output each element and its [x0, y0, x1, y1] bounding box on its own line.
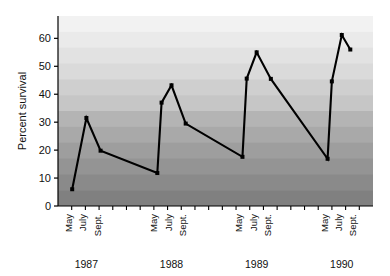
x-month-label: July	[163, 214, 174, 231]
x-year-label: 1990	[330, 258, 354, 270]
background-band	[58, 111, 373, 127]
x-month-label: Sept.	[177, 214, 188, 236]
data-point-marker	[326, 157, 330, 161]
plot-background-bands	[58, 16, 373, 207]
x-year-label: 1988	[160, 258, 184, 270]
data-point-marker	[245, 77, 249, 81]
background-band	[58, 79, 373, 95]
y-tick-label: 0	[45, 200, 51, 212]
y-tick-label: 60	[39, 32, 51, 44]
x-month-label: July	[333, 214, 344, 231]
data-point-marker	[99, 149, 103, 153]
line-chart-svg: 0102030405060 MayJulySept.MayJulySept.Ma…	[0, 0, 390, 276]
background-band	[58, 174, 373, 190]
background-band	[58, 64, 373, 80]
x-month-label: Sept.	[347, 214, 358, 236]
chart-figure: 0102030405060 MayJulySept.MayJulySept.Ma…	[0, 0, 390, 276]
y-tick-label: 20	[39, 144, 51, 156]
background-band	[58, 16, 373, 32]
background-band	[58, 48, 373, 64]
data-point-marker	[170, 83, 174, 87]
x-month-label: Sept.	[262, 214, 273, 236]
data-point-marker	[84, 116, 88, 120]
data-point-marker	[184, 122, 188, 126]
x-year-label: 1987	[75, 258, 99, 270]
data-point-marker	[70, 187, 74, 191]
y-axis-title: Percent survival	[16, 72, 28, 150]
y-tick-label: 50	[39, 60, 51, 72]
data-point-marker	[348, 48, 352, 52]
x-month-label: May	[233, 214, 244, 232]
x-month-label: May	[63, 214, 74, 232]
y-tick-label: 30	[39, 116, 51, 128]
x-month-label: July	[77, 214, 88, 231]
x-month-label: Sept.	[92, 214, 103, 236]
data-point-marker	[269, 77, 273, 81]
background-band	[58, 95, 373, 111]
background-band	[58, 32, 373, 48]
background-band	[58, 159, 373, 175]
data-point-marker	[240, 155, 244, 159]
x-month-label: May	[148, 214, 159, 232]
y-tick-label: 10	[39, 172, 51, 184]
data-point-marker	[160, 101, 164, 105]
background-band	[58, 190, 373, 206]
x-month-label: May	[319, 214, 330, 232]
data-point-marker	[255, 50, 259, 54]
y-tick-label: 40	[39, 88, 51, 100]
data-point-marker	[155, 171, 159, 175]
data-point-marker	[340, 33, 344, 37]
data-point-marker	[330, 79, 334, 83]
x-year-label: 1989	[245, 258, 269, 270]
x-month-label: July	[248, 214, 259, 231]
